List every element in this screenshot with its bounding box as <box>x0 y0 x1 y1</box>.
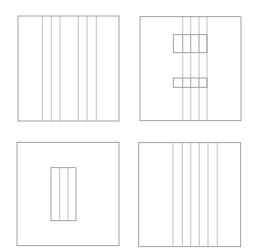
notch-rect <box>173 78 207 87</box>
panel-bottom-left <box>17 142 119 245</box>
panel-bottom-right <box>139 143 241 247</box>
panel-top-left <box>18 16 119 121</box>
diagram-canvas <box>0 0 268 249</box>
panel-frame <box>139 143 241 247</box>
panel-frame <box>18 16 119 121</box>
inner-rect <box>51 168 76 221</box>
notch-rect <box>173 35 207 53</box>
panel-top-right <box>140 17 241 121</box>
